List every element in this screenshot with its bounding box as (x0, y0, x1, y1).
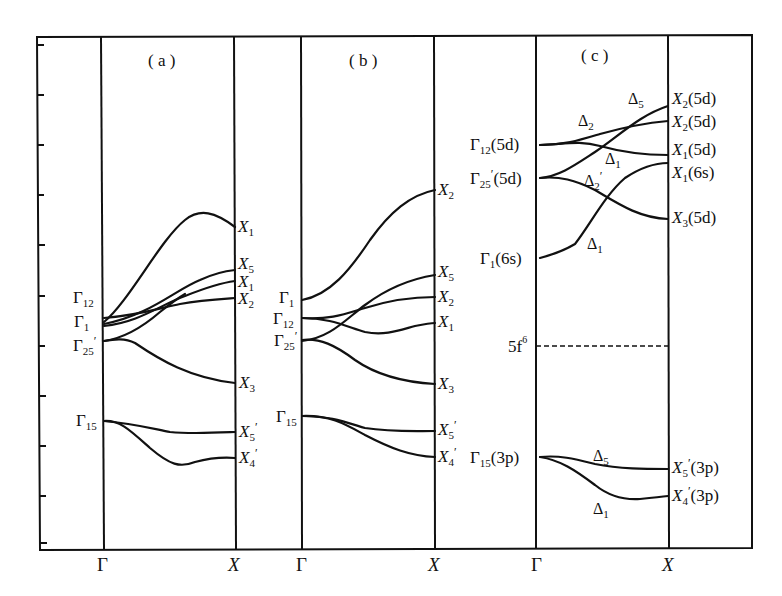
svg-text:Γ1(6s): Γ1(6s) (480, 249, 522, 270)
svg-text:X4′: X4′ (437, 445, 457, 468)
panel-c-bands (536, 106, 668, 499)
band-structure-chart: ( a ) ( b ) ( c ) Γ12 Γ1 Γ25′ Γ15 X1 X5 … (0, 0, 782, 596)
f-level-label: 5f6 (508, 334, 527, 356)
svg-text:Δ2′: Δ2′ (584, 169, 603, 192)
svg-text:X2: X2 (437, 180, 454, 201)
plot-frame (37, 35, 752, 550)
band-a-x3 (104, 339, 235, 383)
x-axis-labels: Γ X Γ X Γ X (97, 554, 675, 575)
svg-text:X5′: X5′ (238, 420, 258, 443)
panel-a-title: ( a ) (148, 51, 175, 70)
panel-a-x-tick: X (227, 554, 241, 575)
panel-a-x-line (234, 36, 236, 549)
svg-text:X1: X1 (437, 312, 454, 333)
svg-text:X3: X3 (238, 373, 255, 394)
svg-text:X4′(3p): X4′(3p) (671, 484, 719, 507)
svg-text:X5′(3p): X5′(3p) (671, 456, 719, 479)
svg-text:Γ1: Γ1 (74, 312, 89, 333)
svg-text:Δ1: Δ1 (605, 150, 621, 170)
svg-text:X4′: X4′ (238, 446, 258, 469)
panel-c-delta-labels: Δ5 Δ2 Δ1 Δ2′ Δ1 Δ5 Δ1 (578, 90, 644, 520)
svg-text:X2(5d): X2(5d) (671, 89, 716, 110)
svg-text:Δ5: Δ5 (628, 90, 644, 110)
svg-text:Γ12: Γ12 (73, 288, 94, 309)
band-c-delta2 (540, 121, 668, 145)
svg-text:X2: X2 (437, 287, 454, 308)
svg-text:X2(5d): X2(5d) (671, 112, 716, 133)
svg-text:X1(6s): X1(6s) (671, 163, 714, 184)
svg-text:Γ15: Γ15 (76, 411, 97, 432)
panel-b-gamma-labels: Γ1 Γ12 Γ25′ Γ15 (273, 288, 298, 428)
svg-text:Γ12(5d): Γ12(5d) (470, 135, 519, 156)
panel-c-x-line (668, 35, 669, 548)
svg-text:Γ1: Γ1 (279, 288, 294, 309)
svg-text:Δ1: Δ1 (587, 235, 603, 255)
svg-text:Γ25′(5d): Γ25′(5d) (470, 167, 522, 190)
panel-b-title: ( b ) (349, 51, 377, 70)
svg-text:Γ25′: Γ25′ (73, 334, 97, 357)
panel-b-gamma-tick: Γ (296, 554, 307, 575)
panel-a-gamma-line (101, 37, 104, 549)
panel-c-title: ( c ) (581, 46, 608, 65)
panel-a-bands (104, 213, 235, 465)
panel-c-gamma-tick: Γ (531, 554, 542, 575)
panel-b-gamma-line (301, 36, 302, 549)
svg-text:Δ1: Δ1 (593, 500, 609, 520)
svg-text:Γ25′: Γ25′ (274, 329, 298, 352)
band-b-x2-upper (302, 190, 435, 300)
panel-b-x-line (434, 36, 435, 549)
band-b-x3 (302, 340, 435, 384)
panel-a-gamma-labels: Γ12 Γ1 Γ25′ Γ15 (73, 288, 97, 432)
svg-text:X5: X5 (437, 262, 454, 283)
svg-text:Γ15(3p): Γ15(3p) (470, 448, 519, 469)
panel-b-x-tick: X (427, 554, 441, 575)
panel-a-gamma-tick: Γ (97, 554, 108, 575)
band-b-x1 (302, 318, 435, 333)
band-a-x4p (104, 421, 235, 465)
svg-text:Γ15: Γ15 (276, 407, 297, 428)
svg-text:X1(5d): X1(5d) (671, 140, 716, 161)
band-b-x4p (302, 416, 435, 457)
panel-c-x-tick: X (661, 554, 675, 575)
svg-text:X5′: X5′ (437, 418, 457, 441)
svg-text:Δ2: Δ2 (578, 112, 594, 132)
panel-b-x-labels: X2 X5 X2 X1 X3 X5′ X4′ (437, 180, 457, 468)
panel-c-x-labels: X2(5d) X2(5d) X1(5d) X1(6s) X3(5d) X5′(3… (671, 89, 719, 507)
svg-text:X1: X1 (237, 217, 254, 238)
svg-text:X3: X3 (437, 374, 454, 395)
svg-text:Γ12: Γ12 (273, 309, 294, 330)
band-b-x2 (302, 297, 435, 318)
panel-c-gamma-labels: Γ12(5d) Γ25′(5d) Γ1(6s) Γ15(3p) 5f6 (470, 135, 527, 469)
svg-text:X3(5d): X3(5d) (671, 208, 716, 229)
band-c-delta2p (540, 178, 668, 220)
panel-a-x-labels: X1 X5 X1 X2 X3 X5′ X4′ (237, 217, 258, 469)
panel-b-bands (302, 190, 435, 457)
